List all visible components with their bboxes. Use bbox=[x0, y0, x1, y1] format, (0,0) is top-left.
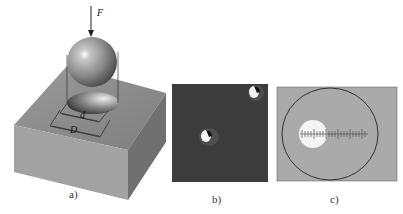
caption-a: a) bbox=[69, 188, 78, 200]
indenter-ball bbox=[67, 37, 117, 87]
caption-b: b) bbox=[212, 193, 221, 205]
indentation-diagram: d D F bbox=[0, 0, 403, 214]
indentation-pit bbox=[67, 92, 119, 114]
label-force: F bbox=[96, 7, 104, 18]
label-D: D bbox=[69, 124, 78, 135]
caption-c: c) bbox=[330, 193, 339, 205]
